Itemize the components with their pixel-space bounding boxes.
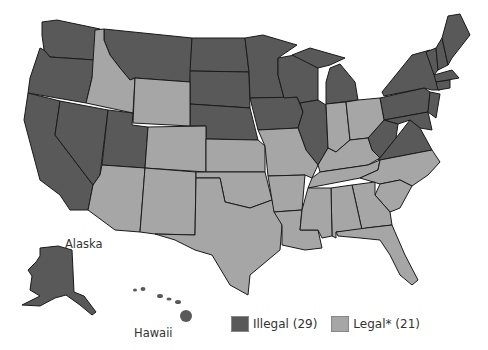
state-new-jersey [428, 92, 440, 118]
state-kansas [206, 139, 265, 172]
legend-item-legal: Legal* (21) [331, 316, 420, 332]
state-connecticut-rhode-island [436, 80, 450, 90]
state-south-dakota [190, 71, 250, 108]
state-maine [442, 14, 470, 65]
legend-swatch-legal [331, 316, 349, 332]
legend-swatch-illegal [231, 316, 249, 332]
state-florida [336, 225, 418, 285]
alaska-label: Alaska [65, 237, 103, 251]
legend-item-illegal: Illegal (29) [231, 316, 317, 332]
state-north-dakota [190, 38, 249, 72]
hawaii-label: Hawaii [134, 326, 173, 340]
state-alaska [22, 246, 96, 315]
state-hawaii [133, 287, 192, 322]
us-map [0, 0, 488, 350]
state-new-mexico [140, 168, 196, 235]
state-iowa [250, 97, 303, 130]
legend: Illegal (29) Legal* (21) [231, 316, 434, 332]
legend-label-illegal: Illegal (29) [253, 317, 317, 331]
state-arkansas [268, 175, 305, 212]
state-mississippi [300, 188, 332, 238]
state-washington [42, 20, 100, 60]
legend-label-legal: Legal* (21) [353, 317, 420, 331]
state-wyoming [133, 78, 190, 126]
state-colorado [145, 126, 206, 172]
